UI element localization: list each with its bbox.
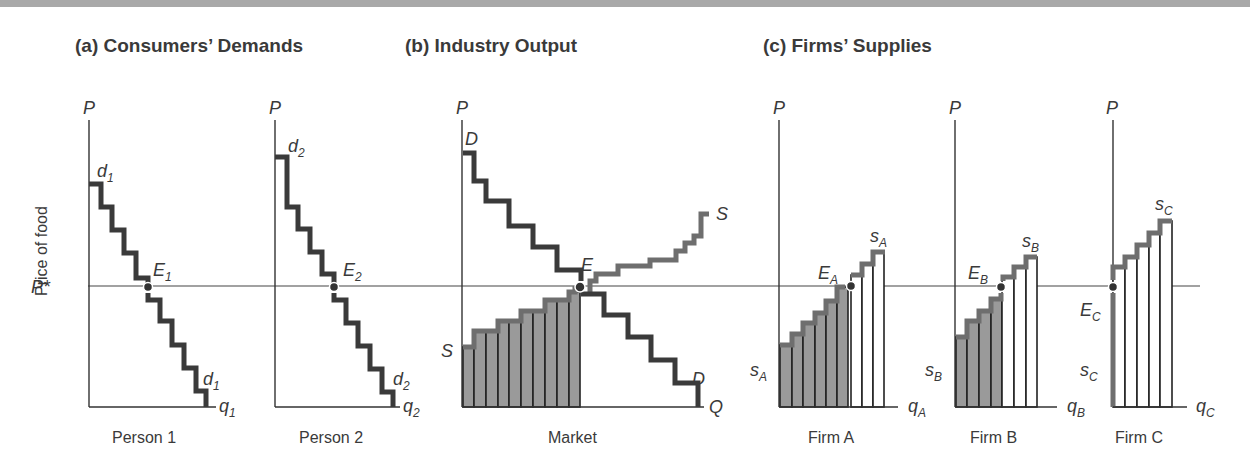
subplot-firm-b: P EB sB sB qB Firm B [925,98,1085,446]
economics-diagram: (a) Consumers’ Demands (b) Industry Outp… [0,0,1253,467]
x-axis-label: q2 [403,396,420,420]
p-axis-label: P [269,98,281,118]
equilibrium-point-ec [1109,283,1118,292]
curve-label: sA [750,360,767,384]
x-axis-label: qB [1067,396,1085,420]
subplot-firm-c: P EC sC sC qC Firm C [1080,98,1215,446]
subplot-caption: Firm B [970,429,1017,446]
p-axis-label: P [1106,98,1118,118]
equilibrium-label: E2 [343,260,362,284]
curve-label: sC [1080,360,1098,384]
equilibrium-point-eb [997,283,1006,292]
subplot-caption: Person 1 [112,429,176,446]
curve-label: sA [870,226,887,250]
x-axis-label: q1 [219,396,236,420]
equilibrium-label: EC [1080,300,1101,324]
p-axis-label: P [456,98,468,118]
demand-curve-d1 [89,184,206,407]
equilibrium-label: E1 [153,260,172,284]
curve-label-S: S [716,204,728,224]
x-axis-label: Q [709,397,723,417]
x-axis-label: qC [1196,396,1215,420]
curve-label: d2 [288,136,305,160]
curve-label: sC [1155,194,1173,218]
p-axis-label: P [773,98,785,118]
subplot-caption: Market [548,429,597,446]
equilibrium-label: E [581,255,594,275]
curve-label-D: D [692,369,705,389]
panel-title-a: (a) Consumers’ Demands [75,35,303,56]
curve-label: d2 [393,369,410,393]
equilibrium-point-ea [847,282,856,291]
panel-title-b: (b) Industry Output [405,35,578,56]
subplot-person-1: P d1 E1 d1 q1 Person 1 [83,98,236,446]
subplot-caption: Firm C [1115,429,1163,446]
curve-label-D: D [465,129,478,149]
p-axis-label: P [83,98,95,118]
equilibrium-point-e [575,282,585,292]
equilibrium-label: EB [968,263,988,287]
curve-label: d1 [97,161,114,185]
equilibrium-label: EA [818,263,838,287]
curve-label-S: S [441,341,453,361]
subplot-market: P D S S E D Q Market [441,98,728,446]
supply-curve-S [463,214,709,347]
panel-title-c: (c) Firms’ Supplies [763,35,932,56]
subplot-person-2: P d2 E2 d2 q2 Person 2 [269,98,420,446]
subplot-caption: Firm A [808,429,855,446]
curve-label: sB [925,360,942,384]
firm-c-bars [1113,221,1172,407]
curve-label: sB [1022,231,1039,255]
subplot-firm-a: P EA sA sA qA Firm A [750,98,926,446]
equilibrium-point-e1 [144,283,153,292]
x-axis-label: qA [908,396,926,420]
p-axis-label: P [949,98,961,118]
p-star-label: P* [31,277,51,297]
equilibrium-point-e2 [330,283,339,292]
subplot-caption: Person 2 [299,429,363,446]
